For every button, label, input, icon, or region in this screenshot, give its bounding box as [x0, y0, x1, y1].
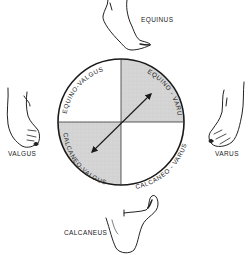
label-valgus: VALGUS [8, 150, 36, 157]
foot-valgus-icon [7, 88, 39, 147]
label-varus: VARUS [215, 150, 239, 157]
quadrant-equino-varus [121, 59, 184, 122]
foot-calcaneus-icon [106, 195, 158, 252]
foot-equinus-icon [103, 0, 150, 50]
foot-varus-icon [209, 82, 244, 146]
label-equinus: EQUINUS [141, 16, 173, 23]
label-calcaneus: CALCANEUS [64, 229, 107, 236]
label-calcaneo-varus: CALCANEO - VARUS [135, 142, 188, 190]
foot-deformity-diagram: EQUINO-VALGUS EQUINO - VARUS CALCANEO-VA… [0, 0, 251, 255]
